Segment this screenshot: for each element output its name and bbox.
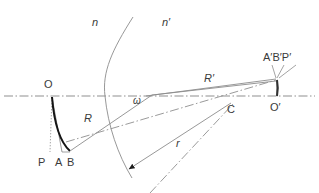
label-object-point-O: O [44,78,53,90]
optics-diagram-canvas: n n′ O P A B R R′ ω r C O′ A′B′P′ [0,0,319,193]
label-ray-R: R [84,112,92,124]
object-line-OP [50,97,52,152]
leader-line-p-prime [279,65,296,78]
label-image-points: A′B′P′ [263,51,291,63]
label-point-B: B [67,156,74,168]
leader-line-a-prime [272,65,276,78]
label-medium-n-prime: n′ [162,16,171,28]
radius-r-line [129,103,231,169]
leader-line-b-prime [277,65,284,78]
auxiliary-chief-line [66,80,276,142]
label-point-A: A [55,156,63,168]
object-curve-OB [52,97,70,151]
label-radius-r: r [176,137,181,149]
label-medium-n: n [92,16,98,28]
label-ray-R-prime: R′ [204,72,215,84]
refracting-surface-arc [104,17,133,178]
label-image-axis-point-O-prime: O′ [270,101,281,113]
auxiliary-lower-line [150,104,233,193]
optics-figure: n n′ O P A B R R′ ω r C O′ A′B′P′ [0,0,319,193]
label-angle-omega: ω [133,95,141,106]
label-point-P: P [38,156,45,168]
label-center-C: C [227,103,235,115]
